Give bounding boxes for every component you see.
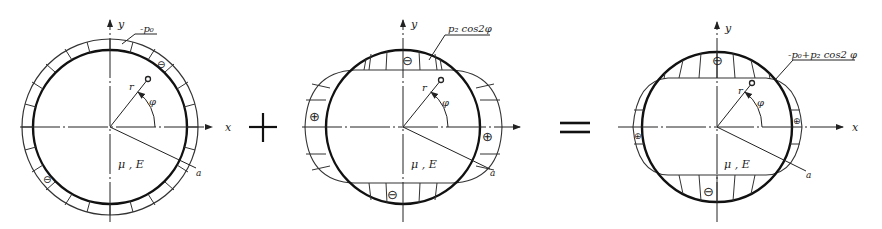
sign-marker-negative: ⊖	[703, 184, 714, 199]
sign-marker-positive: ⊕	[634, 131, 642, 141]
radius-label: r	[422, 82, 428, 93]
load-label: p₂ cos2φ	[448, 23, 492, 34]
x-axis-label: x	[225, 121, 232, 134]
sign-marker-negative: ⊖	[157, 59, 165, 70]
angle-label: φ	[149, 96, 156, 107]
figure-cosine-pressure: y r φ a μ , E p₂ cos2φ ⊖ ⊖ ⊕ ⊕	[302, 18, 520, 222]
x-axis-label: x	[852, 121, 859, 134]
boundary-label: a	[806, 170, 811, 180]
point-marker	[439, 78, 444, 83]
material-label: μ , E	[411, 158, 437, 171]
boundary-label: a	[490, 168, 495, 178]
load-label: -p₀+p₂ cos2 φ	[788, 49, 857, 60]
angle-label: φ	[757, 97, 764, 108]
material-label: μ , E	[724, 158, 750, 171]
figure-uniform-pressure: x y r φ a μ , E -p₀ ⊖ ⊖	[20, 18, 232, 222]
figure-combined-pressure: x y r φ a μ , E -p₀+p₂ cos2 φ ⊖ ⊖ ⊕ ⊕	[618, 22, 859, 222]
material-label: μ , E	[118, 158, 144, 171]
superposition-diagram: x y r φ a μ , E -p₀ ⊖ ⊖	[0, 0, 882, 229]
load-leader	[429, 35, 490, 60]
sign-marker-negative: ⊖	[402, 53, 413, 68]
sign-marker-negative: ⊖	[712, 53, 723, 68]
angle-label: φ	[442, 97, 449, 108]
sign-marker-positive: ⊕	[793, 116, 801, 126]
sign-marker-positive: ⊕	[309, 109, 320, 124]
boundary-label: a	[196, 168, 201, 178]
plus-operator	[249, 113, 277, 142]
load-leader	[775, 60, 855, 80]
point-marker	[750, 81, 755, 86]
radius-label: r	[129, 81, 135, 92]
sign-marker-negative: ⊖	[43, 174, 51, 185]
y-axis-label: y	[724, 22, 732, 35]
sign-marker-negative: ⊖	[387, 187, 398, 202]
load-label: -p₀	[140, 23, 154, 34]
sign-marker-positive: ⊕	[482, 129, 493, 144]
y-axis-label: y	[117, 18, 125, 31]
radius-line	[717, 83, 752, 127]
equals-operator	[560, 123, 590, 132]
y-axis-label: y	[410, 18, 418, 31]
point-marker	[146, 77, 151, 82]
load-leader	[122, 34, 157, 44]
